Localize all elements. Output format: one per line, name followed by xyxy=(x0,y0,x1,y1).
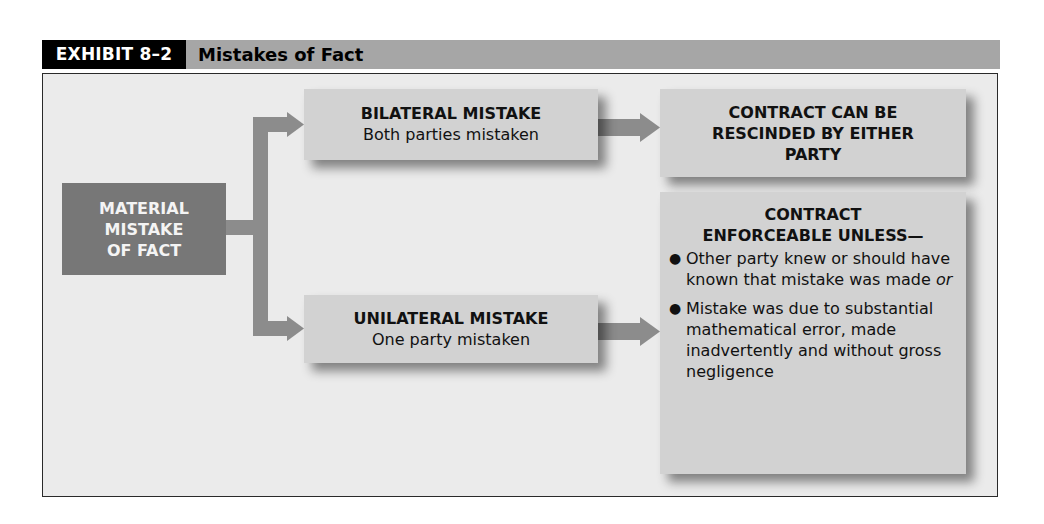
exception-text: Other party knew or should have known th… xyxy=(686,249,950,289)
exception-item: ● Other party knew or should have known … xyxy=(686,248,956,290)
unilateral-mistake-box: UNILATERAL MISTAKE One party mistaken xyxy=(304,295,598,363)
enforceable-result-box: CONTRACT ENFORCEABLE UNLESS— ● Other par… xyxy=(660,192,966,474)
enforceable-title-line: CONTRACT xyxy=(764,204,861,225)
exception-emphasis: or xyxy=(936,270,952,289)
bilateral-title: BILATERAL MISTAKE xyxy=(361,104,542,124)
exceptions-list: ● Other party knew or should have known … xyxy=(660,248,966,390)
material-mistake-box: MATERIAL MISTAKE OF FACT xyxy=(62,183,226,275)
unilateral-title: UNILATERAL MISTAKE xyxy=(354,309,549,329)
exception-item: ● Mistake was due to substantial mathema… xyxy=(686,298,956,382)
bullet-icon: ● xyxy=(669,298,681,319)
arrow-right-icon xyxy=(287,316,304,341)
root-line: MISTAKE xyxy=(105,219,184,240)
rescinded-result-box: CONTRACT CAN BE RESCINDED BY EITHER PART… xyxy=(660,89,966,177)
bilateral-mistake-box: BILATERAL MISTAKE Both parties mistaken xyxy=(304,89,598,160)
arrow-right-icon xyxy=(287,112,304,137)
branch-bar xyxy=(253,117,268,336)
bullet-icon: ● xyxy=(669,248,681,269)
result-line: CONTRACT CAN BE xyxy=(729,102,898,123)
result-line: PARTY xyxy=(785,144,842,165)
root-line: MATERIAL xyxy=(99,198,189,219)
unilateral-subtitle: One party mistaken xyxy=(372,329,530,350)
exception-text: Mistake was due to substantial mathemati… xyxy=(686,299,941,381)
bilateral-subtitle: Both parties mistaken xyxy=(363,124,539,145)
arrow-right-icon xyxy=(640,113,660,142)
arrow-right-icon xyxy=(640,317,660,346)
enforceable-title-line: ENFORCEABLE UNLESS— xyxy=(703,225,924,246)
root-line: OF FACT xyxy=(107,240,181,261)
result-line: RESCINDED BY EITHER xyxy=(712,123,914,144)
